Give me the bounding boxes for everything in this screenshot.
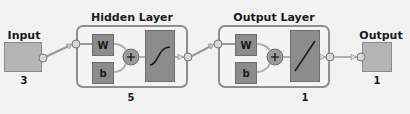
hidden-output-port-icon (184, 53, 192, 61)
connection-wires (0, 0, 410, 114)
output-port-icon (357, 53, 365, 61)
output-layer-output-port-icon (326, 53, 334, 61)
input-port-icon (39, 54, 47, 62)
hidden-input-port-icon (72, 40, 80, 48)
output-layer-input-port-icon (214, 40, 222, 48)
